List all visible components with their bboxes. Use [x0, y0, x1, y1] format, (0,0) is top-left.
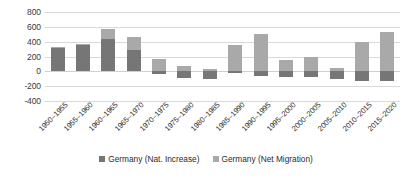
- bar-segment[interactable]: [380, 32, 394, 71]
- y-axis-tick-label: 0: [0, 67, 41, 76]
- bar-segment[interactable]: [51, 47, 65, 48]
- bar-group[interactable]: [152, 12, 166, 101]
- square-swatch-icon: [213, 156, 219, 162]
- bar-segment[interactable]: [279, 71, 293, 76]
- bar-segment[interactable]: [177, 71, 191, 78]
- bar-segment[interactable]: [127, 50, 141, 71]
- bar-group[interactable]: [304, 12, 318, 101]
- bar-group[interactable]: [279, 12, 293, 101]
- bar-group[interactable]: [355, 12, 369, 101]
- y-axis-tick-label: -200: [0, 82, 41, 91]
- y-axis-tick-label: 600: [0, 23, 41, 32]
- y-axis-tick-label: 400: [0, 37, 41, 46]
- bar-segment[interactable]: [254, 71, 268, 75]
- bar-segment[interactable]: [76, 45, 90, 72]
- bar-group[interactable]: [76, 12, 90, 101]
- bar-segment[interactable]: [51, 48, 65, 71]
- bars-container: [45, 12, 400, 101]
- y-axis-tick-label: -400: [0, 97, 41, 106]
- bar-group[interactable]: [101, 12, 115, 101]
- y-axis-tick-label: 800: [0, 8, 41, 17]
- bar-segment[interactable]: [304, 71, 318, 77]
- bar-segment[interactable]: [228, 71, 242, 73]
- bar-segment[interactable]: [279, 60, 293, 71]
- bar-group[interactable]: [203, 12, 217, 101]
- bar-group[interactable]: [177, 12, 191, 101]
- bar-segment[interactable]: [127, 37, 141, 50]
- square-swatch-icon: [99, 156, 105, 162]
- bar-segment[interactable]: [355, 42, 369, 72]
- bar-segment[interactable]: [203, 69, 217, 71]
- legend-item-label: Germany (Nat. Increase): [108, 155, 199, 163]
- bar-segment[interactable]: [228, 45, 242, 71]
- stacked-bar-chart: 8006004002000-200-400 1950–19551955–1960…: [0, 0, 412, 179]
- legend-item-label: Germany (Net Migration): [222, 155, 313, 163]
- bar-segment[interactable]: [330, 68, 344, 72]
- x-axis: 1950–19551955–19601960–19651965–19701970…: [45, 101, 400, 149]
- bar-group[interactable]: [228, 12, 242, 101]
- y-axis: 8006004002000-200-400: [0, 12, 41, 101]
- bar-group[interactable]: [254, 12, 268, 101]
- bar-group[interactable]: [330, 12, 344, 101]
- bar-group[interactable]: [51, 12, 65, 101]
- bar-segment[interactable]: [101, 29, 115, 38]
- bar-segment[interactable]: [76, 44, 90, 45]
- bar-segment[interactable]: [177, 66, 191, 72]
- bar-segment[interactable]: [355, 71, 369, 81]
- bar-segment[interactable]: [152, 71, 166, 74]
- bar-segment[interactable]: [152, 59, 166, 72]
- legend-item[interactable]: Germany (Net Migration): [213, 155, 313, 163]
- bar-segment[interactable]: [380, 71, 394, 81]
- bar-group[interactable]: [127, 12, 141, 101]
- y-axis-tick-label: 200: [0, 52, 41, 61]
- bar-segment[interactable]: [304, 57, 318, 71]
- bar-segment[interactable]: [101, 39, 115, 72]
- chart-legend: Germany (Nat. Increase)Germany (Net Migr…: [0, 155, 412, 163]
- bar-segment[interactable]: [330, 71, 344, 79]
- bar-segment[interactable]: [254, 34, 268, 71]
- bar-segment[interactable]: [203, 71, 217, 79]
- bar-group[interactable]: [380, 12, 394, 101]
- legend-item[interactable]: Germany (Nat. Increase): [99, 155, 199, 163]
